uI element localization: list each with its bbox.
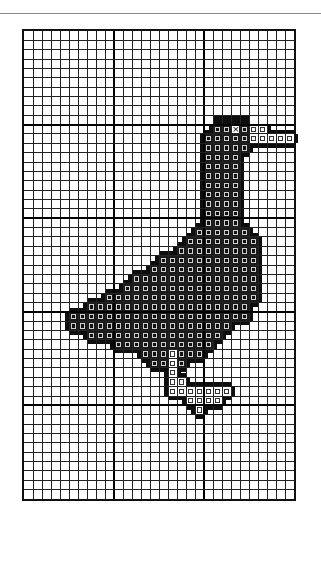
grid-line-horizontal — [24, 377, 294, 378]
grid-line-horizontal — [24, 68, 294, 69]
grid-line-horizontal — [24, 283, 294, 284]
grid-line-horizontal — [24, 49, 294, 50]
outline-edge — [285, 143, 294, 147]
grid-line-horizontal — [24, 424, 294, 425]
grid-line-horizontal — [24, 442, 294, 443]
grid-line-horizontal — [24, 358, 294, 359]
grid-line-horizontal — [24, 265, 294, 266]
grid-line-horizontal — [24, 227, 294, 228]
outline-edge — [294, 134, 298, 143]
grid-line-horizontal — [24, 321, 294, 322]
grid-line-horizontal — [24, 274, 294, 275]
grid-line-horizontal — [24, 152, 294, 153]
grid-line-horizontal — [24, 87, 294, 88]
grid-line-horizontal — [24, 96, 294, 97]
grid-line-horizontal — [24, 77, 294, 78]
grid-line-horizontal — [24, 255, 294, 256]
grid-line-horizontal — [24, 143, 294, 144]
grid-line-horizontal — [24, 349, 294, 350]
grid-line-horizontal — [24, 311, 294, 313]
grid-line-horizontal — [24, 217, 294, 219]
grid-line-horizontal — [24, 246, 294, 247]
grid-line-horizontal — [24, 470, 294, 471]
grid-line-horizontal — [24, 489, 294, 490]
grid-line-horizontal — [24, 105, 294, 106]
grid-line-horizontal — [24, 386, 294, 387]
grid-line-horizontal — [24, 461, 294, 462]
grid-line-horizontal — [24, 40, 294, 41]
grid-line-horizontal — [24, 124, 294, 126]
grid-line-horizontal — [24, 302, 294, 303]
top-divider — [0, 13, 321, 14]
grid-line-horizontal — [24, 133, 294, 134]
grid-line-horizontal — [24, 480, 294, 481]
grid-line-horizontal — [24, 367, 294, 368]
grid-line-horizontal — [24, 396, 294, 397]
grid-line-horizontal — [24, 404, 294, 406]
grid-line-horizontal — [24, 208, 294, 209]
grid-line-horizontal — [24, 339, 294, 340]
grid-line-horizontal — [24, 433, 294, 434]
grid-line-horizontal — [24, 330, 294, 331]
grid-line-horizontal — [24, 452, 294, 453]
grid-line-horizontal — [24, 293, 294, 294]
grid-line-horizontal — [24, 190, 294, 191]
grid-line-horizontal — [24, 59, 294, 60]
grid-line-horizontal — [24, 180, 294, 181]
grid-line-horizontal — [24, 236, 294, 237]
cross-stitch-chart — [22, 29, 296, 501]
grid-line-horizontal — [24, 199, 294, 200]
grid-line-horizontal — [24, 414, 294, 415]
grid-line-horizontal — [24, 162, 294, 163]
grid-line-horizontal — [24, 171, 294, 172]
grid-line-horizontal — [24, 115, 294, 116]
